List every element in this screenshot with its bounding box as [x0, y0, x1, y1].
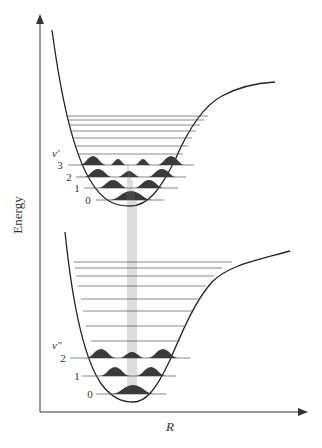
- lower-level-label: 0: [87, 388, 93, 400]
- franck-condon-diagram: Energy R v′ 3 2 1 0: [0, 0, 322, 448]
- upper-level-label: 3: [57, 159, 63, 171]
- lower-level-label: 2: [60, 352, 66, 364]
- upper-level-label: 2: [66, 171, 72, 183]
- upper-potential-well: [52, 30, 275, 206]
- x-axis: [40, 408, 308, 416]
- y-axis: [36, 14, 44, 412]
- y-axis-label: Energy: [10, 196, 25, 234]
- lower-potential-well: [65, 232, 290, 402]
- lower-level-label: 1: [74, 370, 80, 382]
- y-axis-arrow-icon: [36, 14, 44, 24]
- upper-level-label: 0: [85, 194, 91, 206]
- x-axis-arrow-icon: [298, 408, 308, 416]
- upper-state-label: v′: [52, 147, 60, 159]
- upper-level-label: 1: [74, 182, 80, 194]
- lower-state-label: v″: [52, 339, 62, 351]
- x-axis-label: R: [165, 419, 174, 434]
